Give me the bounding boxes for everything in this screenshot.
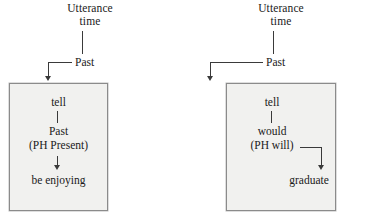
arrowhead-into-box-right <box>207 76 213 81</box>
utterance-time-line1: Utterance <box>55 2 125 15</box>
connector-phwill-elbow-horizontal-right <box>300 147 322 148</box>
diagram-left: Utterance time Past tell Past (PH Presen… <box>0 0 189 214</box>
diagram-right: Utterance time Past tell would (PH will)… <box>190 0 379 214</box>
node-ph-will-right: (PH will) <box>226 139 318 152</box>
connector-past-elbow-vertical-right <box>210 62 211 77</box>
utterance-time-line1: Utterance <box>246 2 316 15</box>
connector-past-elbow-horizontal-right <box>210 62 263 63</box>
node-past-left: Past <box>9 125 108 138</box>
connector-past-elbow-vertical-left <box>48 62 49 77</box>
connector-past-elbow-horizontal-left <box>48 62 72 63</box>
node-would-right: would <box>226 125 318 138</box>
connector-utterance-to-past-left <box>82 31 83 54</box>
figure-canvas: Utterance time Past tell Past (PH Presen… <box>0 0 379 214</box>
node-be-enjoying-left: be enjoying <box>9 174 108 187</box>
node-graduate-right: graduate <box>274 174 344 187</box>
past-anchor-label-right: Past <box>266 56 285 69</box>
arrowhead-graduate-right <box>318 165 324 170</box>
node-ph-present-left: (PH Present) <box>9 139 108 152</box>
utterance-time-line2: time <box>55 15 125 28</box>
past-anchor-label-left: Past <box>75 56 94 69</box>
connector-tell-to-would-right <box>271 111 272 123</box>
arrowhead-into-box-left <box>45 76 51 81</box>
node-tell-left: tell <box>9 96 108 109</box>
connector-phwill-elbow-vertical-right <box>321 147 322 167</box>
utterance-time-label-left: Utterance time <box>55 2 125 28</box>
utterance-time-line2: time <box>246 15 316 28</box>
arrowhead-beenjoying-left <box>54 165 60 170</box>
connector-tell-to-past-left <box>57 111 58 123</box>
utterance-time-label-right: Utterance time <box>246 2 316 28</box>
connector-utterance-to-past-right <box>273 31 274 54</box>
node-tell-right: tell <box>226 96 318 109</box>
